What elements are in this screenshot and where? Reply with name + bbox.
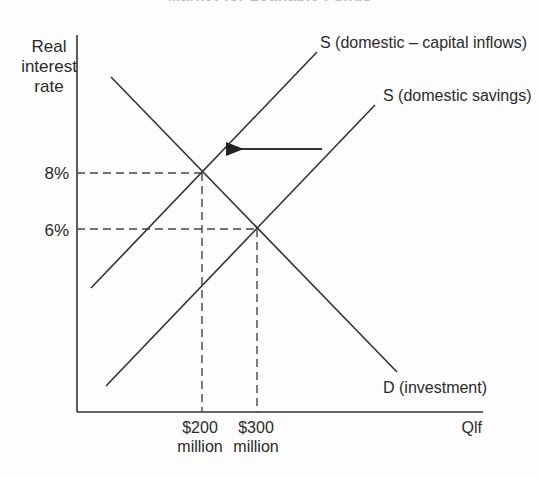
y-tick-8pct: 8% [44,164,69,183]
loanable-funds-chart: Market for Loanable Funds Real interest … [0,0,539,478]
x-tick-300-unit: million [233,438,278,455]
x-tick-200: $200 [182,419,218,436]
x-tick-200-unit: million [177,438,222,455]
demand-investment-label: D (investment) [383,379,487,396]
y-tick-6pct: 6% [44,221,69,240]
y-axis-label-line3: rate [34,77,63,96]
y-axis-label-line1: Real [32,37,67,56]
x-axis-label: Qlf [462,419,483,436]
supply-domestic-savings-label: S (domestic savings) [383,87,532,104]
supply-domestic-savings-line [106,105,375,386]
supply-capital-inflows-line [91,52,317,288]
supply-capital-inflows-label: S (domestic – capital inflows) [320,34,527,51]
y-axis-label-line2: interest [21,57,77,76]
x-tick-300: $300 [238,419,274,436]
demand-investment-line [111,77,397,372]
chart-svg: Real interest rate 8% 6% $200 $300 milli… [0,0,539,478]
